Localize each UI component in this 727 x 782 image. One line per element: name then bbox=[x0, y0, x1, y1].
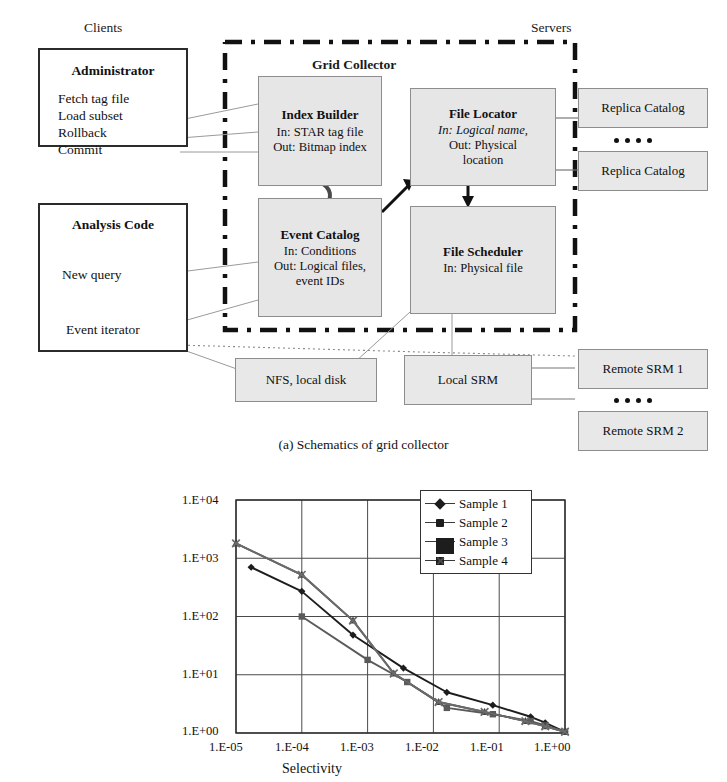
analysis-code-action-new-query[interactable]: New query bbox=[62, 267, 122, 283]
legend-item-sample-2[interactable]: Sample 2 bbox=[425, 513, 525, 532]
component-file-locator[interactable]: File Locator In: Logical name, Out: Phys… bbox=[410, 88, 556, 186]
administrator-action-rollback[interactable]: Rollback bbox=[58, 125, 107, 141]
remote-srm-1-label: Remote SRM 1 bbox=[603, 361, 684, 377]
server-remote-srm-1[interactable]: Remote SRM 1 bbox=[578, 349, 708, 389]
storage-local-srm[interactable]: Local SRM bbox=[404, 355, 532, 405]
file-locator-out: Out: Physical bbox=[449, 138, 517, 153]
server-replica-catalog-2[interactable]: Replica Catalog bbox=[578, 151, 708, 191]
legend-label-3: Sample 4 bbox=[459, 554, 508, 567]
client-box-analysis-code[interactable]: Analysis Code New query Event iterator bbox=[38, 203, 188, 352]
index-builder-title: Index Builder bbox=[282, 107, 359, 122]
legend-label-0: Sample 1 bbox=[459, 497, 508, 510]
grid-collector-label: Grid Collector bbox=[312, 57, 396, 73]
analysis-code-event-iterator[interactable]: Event iterator bbox=[66, 322, 140, 338]
client-box-administrator[interactable]: Administrator Fetch tag file Load subset… bbox=[38, 48, 188, 147]
event-catalog-out: Out: Logical files, bbox=[274, 259, 366, 274]
replica-catalog-2-label: Replica Catalog bbox=[601, 163, 684, 179]
legend-marker-square-icon bbox=[425, 517, 455, 529]
file-scheduler-title: File Scheduler bbox=[443, 244, 523, 259]
legend-marker-triangle-icon bbox=[425, 536, 455, 548]
administrator-title: Administrator bbox=[40, 63, 186, 79]
event-catalog-in: In: Conditions bbox=[284, 244, 356, 259]
file-locator-title: File Locator bbox=[449, 106, 517, 121]
legend-marker-diamond-icon bbox=[425, 498, 455, 510]
component-file-scheduler[interactable]: File Scheduler In: Physical file bbox=[410, 206, 556, 314]
legend-item-sample-1[interactable]: Sample 1 bbox=[425, 494, 525, 513]
nfs-local-disk-label: NFS, local disk bbox=[266, 372, 347, 388]
index-builder-out: Out: Bitmap index bbox=[273, 140, 367, 155]
server-replica-catalog-1[interactable]: Replica Catalog bbox=[578, 88, 708, 128]
legend-label-1: Sample 2 bbox=[459, 516, 508, 529]
figure-page: Clients Servers Grid Collector Administr… bbox=[0, 0, 727, 782]
speedup-selectivity-chart: Speedup Selectivity 1.E+04 1.E+03 1.E+02… bbox=[0, 465, 727, 782]
clients-label: Clients bbox=[84, 20, 122, 36]
replica-catalog-1-label: Replica Catalog bbox=[601, 100, 684, 116]
event-catalog-title: Event Catalog bbox=[280, 227, 359, 242]
component-index-builder[interactable]: Index Builder In: STAR tag file Out: Bit… bbox=[258, 76, 382, 186]
figure-a-caption: (a) Schematics of grid collector bbox=[0, 437, 727, 453]
component-event-catalog[interactable]: Event Catalog In: Conditions Out: Logica… bbox=[258, 198, 382, 317]
legend-marker-x-icon bbox=[425, 555, 455, 567]
chart-plot-area bbox=[0, 465, 727, 782]
legend-item-sample-4[interactable]: Sample 4 bbox=[425, 551, 525, 570]
legend-label-2: Sample 3 bbox=[459, 535, 508, 548]
replica-catalog-ellipsis bbox=[614, 138, 652, 143]
file-locator-in: In: Logical name, bbox=[438, 123, 528, 138]
administrator-action-load[interactable]: Load subset bbox=[58, 108, 123, 124]
storage-nfs-local-disk[interactable]: NFS, local disk bbox=[235, 358, 377, 402]
analysis-code-title: Analysis Code bbox=[40, 217, 186, 233]
chart-legend: Sample 1 Sample 2 Sample 3 Sample 4 bbox=[420, 490, 532, 574]
administrator-action-commit[interactable]: Commit bbox=[58, 142, 102, 158]
index-builder-in: In: STAR tag file bbox=[277, 125, 364, 140]
servers-label: Servers bbox=[531, 20, 572, 36]
file-scheduler-in: In: Physical file bbox=[443, 261, 523, 276]
grid-collector-schematic: Clients Servers Grid Collector Administr… bbox=[0, 0, 727, 465]
remote-srm-ellipsis bbox=[614, 398, 652, 403]
administrator-action-fetch[interactable]: Fetch tag file bbox=[58, 91, 129, 107]
legend-item-sample-3[interactable]: Sample 3 bbox=[425, 532, 525, 551]
file-locator-out-cont: location bbox=[463, 153, 504, 168]
local-srm-label: Local SRM bbox=[438, 372, 498, 388]
event-catalog-out-cont: event IDs bbox=[296, 274, 345, 289]
